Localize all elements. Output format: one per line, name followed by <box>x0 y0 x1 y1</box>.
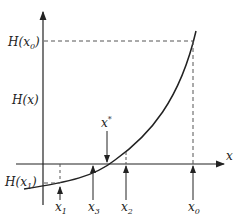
label-h-x1: H(x1) <box>4 175 37 191</box>
label-x-star: x* <box>101 115 112 130</box>
label-x2: x2 <box>121 200 133 216</box>
label-x1: x1 <box>55 200 67 216</box>
label-h-x: H(x) <box>11 93 39 107</box>
label-x-axis: x <box>226 149 233 163</box>
label-h-x0: H(x0) <box>7 35 40 51</box>
label-x0: x0 <box>188 200 200 216</box>
diagram-canvas: H(x0) H(x) H(x1) x x* x1 x3 x2 x0 <box>0 0 239 221</box>
label-x3: x3 <box>88 200 100 216</box>
h-curve <box>24 31 196 189</box>
